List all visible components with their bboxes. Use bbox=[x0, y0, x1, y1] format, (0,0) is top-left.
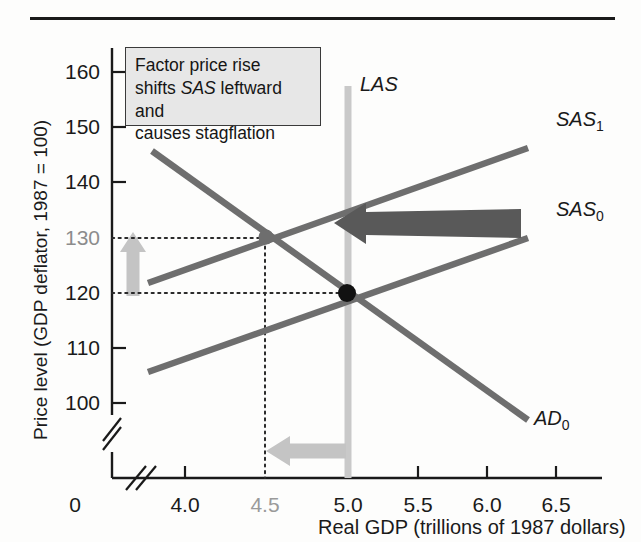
y-tick-label-100: 100 bbox=[48, 392, 100, 413]
sas1-label-sub: 1 bbox=[596, 118, 604, 134]
ad0-label: AD0 bbox=[534, 407, 570, 433]
x-axis-title: Real GDP (trillions of 1987 dollars) bbox=[318, 516, 626, 539]
ad0-label-base: AD bbox=[534, 407, 562, 429]
y-tick-label-130: 130 bbox=[48, 227, 100, 248]
shift-arrow-left-icon bbox=[334, 203, 521, 244]
origin-label: 0 bbox=[43, 494, 107, 515]
output-fall-arrow-left-icon bbox=[266, 436, 346, 466]
x-tick-label-6-5: 6.5 bbox=[524, 494, 588, 515]
sas1-label-base: SAS bbox=[556, 108, 596, 130]
new-equilibrium-dot bbox=[259, 230, 274, 245]
annotation-note-box: Factor price rise shifts SAS leftward an… bbox=[125, 47, 321, 126]
y-tick-label-160: 160 bbox=[48, 61, 100, 82]
note-line-2: shifts SAS leftward and bbox=[135, 77, 311, 123]
x-tick-label-4-0: 4.0 bbox=[153, 494, 217, 515]
sas0-label: SAS0 bbox=[556, 198, 604, 224]
x-tick-marks bbox=[185, 466, 556, 478]
y-tick-label-110: 110 bbox=[48, 337, 100, 358]
note-line-2-emphasis: SAS bbox=[181, 78, 216, 98]
note-line-1-text: Factor price rise bbox=[135, 55, 260, 75]
y-tick-label-140: 140 bbox=[48, 171, 100, 192]
y-axis-title: Price level (GDP deflator, 1987 = 100) bbox=[30, 120, 52, 440]
note-line-3-text: causes stagflation bbox=[135, 123, 275, 143]
x-tick-label-5-5: 5.5 bbox=[386, 494, 450, 515]
las-label: LAS bbox=[360, 73, 398, 96]
ad0-curve bbox=[152, 151, 528, 420]
x-tick-label-4-5: 4.5 bbox=[233, 494, 297, 515]
y-tick-label-150: 150 bbox=[48, 116, 100, 137]
x-tick-label-6-0: 6.0 bbox=[455, 494, 519, 515]
note-line-1: Factor price rise bbox=[135, 54, 311, 77]
ad0-label-sub: 0 bbox=[562, 417, 570, 433]
x-tick-label-5-0: 5.0 bbox=[316, 494, 380, 515]
sas1-label: SAS1 bbox=[556, 108, 604, 134]
sas0-label-base: SAS bbox=[556, 198, 596, 220]
note-line-3: causes stagflation bbox=[135, 122, 311, 145]
sas0-label-sub: 0 bbox=[596, 208, 604, 224]
price-rise-arrow-up-icon bbox=[120, 232, 146, 296]
note-line-2-prefix: shifts bbox=[135, 78, 181, 98]
figure-canvas: Factor price rise shifts SAS leftward an… bbox=[0, 0, 641, 542]
sas0-curve bbox=[148, 238, 528, 372]
y-tick-label-120: 120 bbox=[48, 282, 100, 303]
initial-equilibrium-dot bbox=[338, 284, 356, 302]
